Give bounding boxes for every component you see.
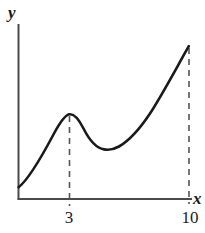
- x-tick-label-3: 3: [55, 209, 83, 226]
- plot-canvas: [0, 0, 205, 233]
- x-tick-label-10: 10: [175, 209, 205, 226]
- function-curve: [19, 46, 189, 187]
- x-axis-label: x: [193, 190, 202, 207]
- function-graph-figure: y x 3 10: [0, 0, 205, 233]
- y-axis-label: y: [8, 4, 16, 21]
